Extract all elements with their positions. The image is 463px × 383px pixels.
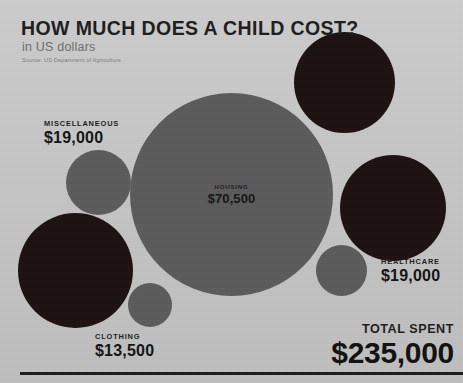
callout-clothing-value: $13,500 <box>95 343 154 359</box>
bubble-clothing[interactable] <box>128 283 172 327</box>
infographic-poster: HOUSING $70,500 HOW MUCH DOES A CHILD CO… <box>0 0 463 383</box>
bubble-housing[interactable]: HOUSING $70,500 <box>130 93 333 296</box>
bubble-housing-category: HOUSING <box>214 184 248 190</box>
callout-healthcare-category: HEALTHCARE <box>381 258 440 265</box>
bubble-food[interactable] <box>18 213 133 328</box>
page-title: HOW MUCH DOES A CHILD COST? <box>21 18 359 38</box>
callout-miscellaneous-category: MISCELLANEOUS <box>44 120 119 127</box>
total-spent-value: $235,000 <box>331 337 454 369</box>
page-subtitle: in US dollars <box>22 40 359 54</box>
bubble-miscellaneous[interactable] <box>66 150 131 215</box>
callout-healthcare: HEALTHCARE $19,000 <box>381 258 440 284</box>
poster-header: HOW MUCH DOES A CHILD COST? in US dollar… <box>21 18 359 63</box>
bubble-transportation[interactable] <box>340 155 446 261</box>
bubble-housing-value: $70,500 <box>208 192 256 205</box>
callout-clothing-category: CLOTHING <box>95 333 154 340</box>
source-credit: Source: US Department of Agriculture <box>22 57 359 63</box>
callout-clothing: CLOTHING $13,500 <box>95 333 154 359</box>
callout-miscellaneous: MISCELLANEOUS $19,000 <box>44 120 119 146</box>
total-spent-label: TOTAL SPENT <box>331 323 454 336</box>
callout-healthcare-value: $19,000 <box>381 268 440 284</box>
callout-miscellaneous-value: $19,000 <box>44 130 119 146</box>
bubble-healthcare[interactable] <box>316 245 367 296</box>
total-spent-block: TOTAL SPENT $235,000 <box>331 323 454 369</box>
bottom-divider <box>20 372 463 375</box>
